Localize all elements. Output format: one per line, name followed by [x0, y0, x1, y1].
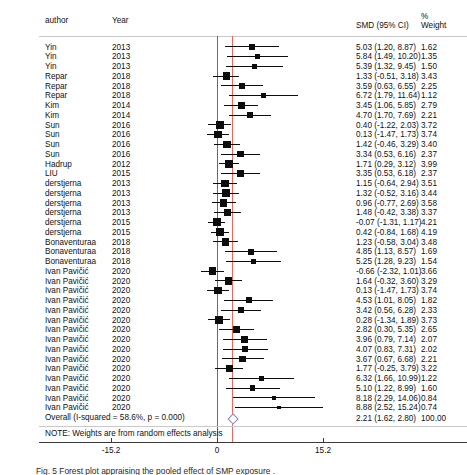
- effect-size-marker: [259, 376, 264, 381]
- effect-size-marker: [214, 287, 222, 295]
- column-header-author: author: [45, 16, 68, 25]
- effect-size-marker: [225, 160, 233, 168]
- effect-size-marker: [242, 346, 248, 352]
- overall-label: Overall (I-squared = 58.6%, p = 0.000): [45, 413, 185, 422]
- effect-size-marker: [209, 267, 217, 275]
- effect-size-marker: [251, 259, 257, 265]
- note-divider-top: [39, 426, 467, 427]
- effect-size-marker: [233, 326, 240, 333]
- column-header-weight: Weight: [421, 21, 446, 30]
- column-header-year: Year: [112, 16, 129, 25]
- effect-size-marker: [250, 385, 256, 391]
- effect-size-marker: [255, 54, 260, 59]
- x-axis-tick: [111, 438, 112, 442]
- effect-size-marker: [249, 44, 255, 50]
- x-axis-tick-label: 0: [215, 446, 220, 455]
- effect-size-marker: [213, 218, 221, 226]
- x-axis-tick: [323, 438, 324, 442]
- effect-size-marker: [216, 121, 224, 129]
- effect-size-marker: [220, 199, 228, 207]
- cell-smd-ci: 8.88 (2.52, 15.24): [356, 402, 421, 413]
- effect-size-marker: [214, 131, 222, 139]
- effect-size-marker: [237, 151, 244, 158]
- x-axis-tick-label: 15.2: [315, 446, 331, 455]
- overall-effect-diamond: [228, 413, 240, 425]
- pooled-effect-line: [232, 36, 233, 442]
- effect-size-marker: [241, 336, 247, 342]
- effect-size-marker: [247, 112, 253, 118]
- x-axis-line: [39, 442, 467, 443]
- column-header-percent: %: [421, 12, 428, 21]
- effect-size-marker: [222, 189, 229, 196]
- effect-size-marker: [272, 396, 276, 400]
- effect-size-marker: [215, 316, 223, 324]
- effect-size-marker: [224, 209, 231, 216]
- effect-size-marker: [252, 64, 258, 70]
- cell-overall-smd-ci: 2.21 (1.62, 2.80): [356, 413, 416, 424]
- effect-size-marker: [277, 406, 280, 409]
- effect-size-marker: [239, 83, 245, 89]
- effect-size-marker: [261, 93, 266, 98]
- forest-plot-figure: author Year SMD (95% CI) % Weight Yin201…: [0, 0, 467, 475]
- effect-size-marker: [223, 72, 230, 79]
- x-axis-tick-label: -15.2: [102, 446, 121, 455]
- cell-weight: 0.74: [421, 402, 437, 413]
- effect-size-marker: [222, 238, 229, 245]
- effect-size-marker: [248, 249, 254, 255]
- effect-size-marker: [225, 277, 232, 284]
- x-axis-tick: [217, 438, 218, 442]
- effect-size-marker: [237, 170, 244, 177]
- effect-size-marker: [216, 228, 224, 236]
- effect-size-marker: [238, 307, 245, 314]
- effect-size-marker: [226, 365, 233, 372]
- effect-size-marker: [223, 141, 230, 148]
- effect-size-marker: [221, 180, 229, 188]
- column-header-smd: SMD (95% CI): [356, 21, 409, 30]
- null-effect-line: [217, 36, 218, 442]
- note-text: NOTE: Weights are from random effects an…: [45, 429, 223, 438]
- figure-caption: Fig. 5 Forest plot appraising the pooled…: [36, 466, 467, 475]
- effect-size-marker: [246, 297, 252, 303]
- cell-overall-weight: 100.00: [421, 413, 446, 424]
- effect-size-marker: [239, 356, 245, 362]
- plot-canvas: [0, 36, 350, 442]
- effect-size-marker: [238, 102, 245, 109]
